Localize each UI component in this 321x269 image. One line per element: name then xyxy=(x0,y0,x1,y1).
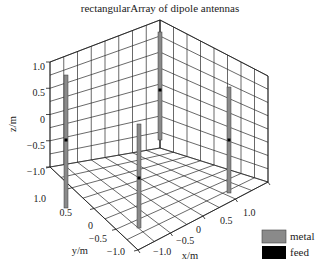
z-tick: 0.5 xyxy=(33,87,46,98)
feed-point xyxy=(138,177,141,180)
grid-line xyxy=(203,216,205,219)
y-tick: −1.0 xyxy=(107,246,125,257)
x-axis-ticks: −1.0 −0.5 0 0.5 1.0 xyxy=(153,207,256,257)
z-axis-label: z/m xyxy=(7,116,18,132)
legend: metal feed xyxy=(262,230,314,259)
grid-line xyxy=(133,153,236,199)
y-tick: 0 xyxy=(88,220,93,231)
z-tick: −1.0 xyxy=(27,166,45,177)
x-tick: 0.5 xyxy=(220,215,233,226)
x-tick: 1.0 xyxy=(243,207,256,218)
z-tick: 0 xyxy=(40,114,45,125)
grid-line xyxy=(112,229,116,230)
x-tick: −0.5 xyxy=(176,235,194,246)
grid-line xyxy=(146,150,252,190)
x-tick: −1.0 xyxy=(153,246,171,257)
y-axis-label: y/m xyxy=(72,245,88,256)
grid-line xyxy=(138,250,140,253)
z-tick: −0.5 xyxy=(27,140,45,151)
z-tick: 1.0 xyxy=(33,61,46,72)
antenna-array-plot: rectangularArray of dipole antennas 1.0 … xyxy=(0,0,321,269)
grid-line xyxy=(119,155,220,207)
grid-line xyxy=(68,188,72,189)
grid-line xyxy=(134,250,138,251)
grid-line xyxy=(105,169,228,219)
grid-line xyxy=(268,182,270,185)
legend-label-feed: feed xyxy=(290,246,309,258)
feed-point xyxy=(159,89,162,92)
legend-swatch-feed xyxy=(262,246,286,259)
z-axis-ticks: 1.0 0.5 0 −0.5 −1.0 xyxy=(27,61,45,177)
y-tick: 1.0 xyxy=(34,193,47,204)
dipole-antenna xyxy=(158,32,162,140)
chart-title: rectangularArray of dipole antennas xyxy=(81,2,240,14)
y-tick: 0.5 xyxy=(60,207,73,218)
legend-label-metal: metal xyxy=(290,230,314,242)
grid-line xyxy=(171,233,173,236)
grid-line xyxy=(90,209,94,210)
dipole-antenna xyxy=(137,124,141,228)
y-tick: −0.5 xyxy=(89,233,107,244)
grid-line xyxy=(127,178,255,240)
grid-line xyxy=(236,199,238,202)
x-axis-label: x/m xyxy=(182,250,198,261)
legend-swatch-metal xyxy=(262,230,286,243)
feed-point xyxy=(228,139,231,142)
feed-point xyxy=(65,139,68,142)
x-tick: 0 xyxy=(196,224,201,235)
